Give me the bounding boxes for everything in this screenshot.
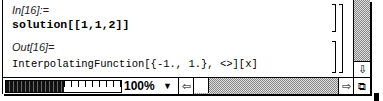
ruler-ticks: [64, 81, 121, 87]
grow-box-icon[interactable]: ⧉: [353, 78, 370, 94]
bottom-bar: 100% ▼ ⇦ ⇨ ⧉: [3, 77, 369, 94]
horizontal-scrollbar[interactable]: ⇦ ⇨: [178, 78, 354, 94]
zoom-dropdown-arrow-icon[interactable]: ▼: [163, 80, 172, 92]
magnification-ruler[interactable]: [5, 80, 122, 93]
input-cell[interactable]: solution[[1,1,2]]: [12, 18, 129, 31]
scroll-left-arrow-icon[interactable]: ⇦: [179, 78, 194, 94]
notebook-content: In[16]:= solution[[1,1,2]] Out[16]= Inte…: [3, 0, 353, 77]
output-label: Out[16]=: [12, 41, 55, 53]
input-label: In[16]:=: [12, 4, 49, 16]
notebook-window: In[16]:= solution[[1,1,2]] Out[16]= Inte…: [2, 0, 370, 94]
zoom-level[interactable]: 100%: [124, 79, 155, 93]
output-cell-bracket[interactable]: [332, 41, 336, 73]
scroll-thumb[interactable]: [194, 78, 209, 93]
group-cell-bracket[interactable]: [339, 4, 343, 73]
scroll-right-arrow-icon[interactable]: ⇨: [338, 78, 354, 94]
output-cell[interactable]: InterpolatingFunction[{-1., 1.}, <>][x]: [12, 58, 258, 70]
input-cell-bracket[interactable]: [332, 4, 336, 32]
scroll-down-arrow-icon[interactable]: ⇩: [354, 61, 370, 77]
window-edge-mark: [374, 93, 379, 101]
ruler-fill: [6, 81, 64, 92]
vertical-scrollbar[interactable]: ⇩: [353, 0, 370, 77]
